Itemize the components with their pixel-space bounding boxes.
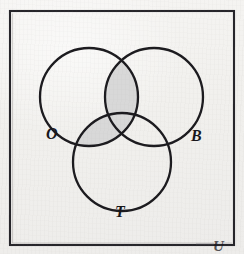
set-label-O: O — [46, 126, 58, 142]
set-label-T: T — [115, 204, 125, 220]
venn-diagram-figure: O B T U — [0, 0, 244, 254]
universe-label-U: U — [213, 239, 224, 254]
set-label-B: B — [191, 128, 202, 144]
